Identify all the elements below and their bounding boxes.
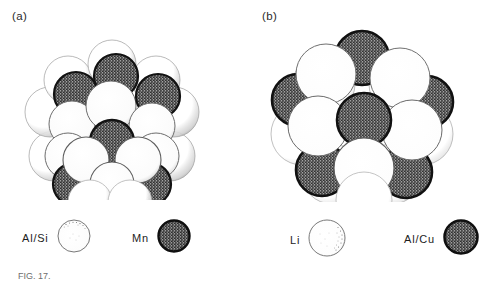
legend-swatch-light-sphere — [56, 218, 92, 258]
sphere-li — [296, 44, 356, 104]
legend-label-li: Li — [290, 234, 300, 246]
legend-entry-alcu: Al/Cu — [404, 218, 480, 260]
figure-caption: FIG. 17. — [18, 273, 51, 281]
cluster-b-spheres — [271, 31, 453, 202]
legend-swatch-light-sphere — [307, 218, 347, 262]
legend-swatch-dark-sphere — [442, 218, 480, 260]
sphere-li — [382, 100, 442, 160]
legend-entry-mn: Mn — [132, 218, 192, 258]
panel-a-label: (a) — [12, 10, 27, 22]
panel-b: (b) — [238, 0, 476, 282]
legend-b: Li — [290, 216, 483, 256]
panel-a: (a) — [0, 0, 238, 282]
legend-entry-alsi: Al/Si — [22, 218, 92, 258]
legend-entry-li: Li — [290, 218, 347, 262]
legend-a: Al/Si — [22, 216, 232, 256]
cluster-a-spheres — [25, 40, 199, 200]
cluster-diagram-a — [12, 24, 212, 200]
panel-b-label: (b) — [262, 10, 277, 22]
legend-label-mn: Mn — [132, 232, 149, 244]
figure-caption-strip: FIG. 17. — [0, 273, 476, 282]
cluster-diagram-b — [260, 22, 460, 202]
legend-label-alcu: Al/Cu — [404, 233, 435, 245]
legend-label-alsi: Al/Si — [22, 232, 49, 244]
legend-swatch-dark-sphere — [156, 218, 192, 258]
